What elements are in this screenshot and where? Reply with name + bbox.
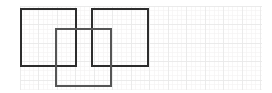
diagram-canvas [0, 0, 272, 93]
overlapping-squares-figure [0, 0, 272, 93]
square-center-lower [56, 29, 111, 86]
square-right [92, 9, 148, 66]
